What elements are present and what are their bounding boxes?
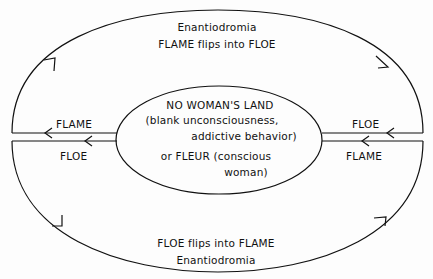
left-lower-label: FLOE <box>60 150 87 162</box>
center-line-1: NO WOMAN'S LAND <box>166 99 273 111</box>
right-upper-label: FLOE <box>352 118 379 130</box>
enantiodromia-diagram: Enantiodromia FLAME flips into FLOE FLAM… <box>0 0 433 279</box>
left-upper-label: FLAME <box>56 118 92 130</box>
center-line-2: (blank unconsciousness, <box>145 114 278 126</box>
center-line-3: addictive behavior) <box>191 130 296 142</box>
center-line-5: woman) <box>224 166 268 178</box>
right-lower-label: FLAME <box>346 150 382 162</box>
center-line-4: or FLEUR (conscious <box>161 150 271 162</box>
bottom-arc-title: Enantiodromia <box>176 254 255 266</box>
arrow-top-left-icon <box>44 58 55 71</box>
top-arc-subtitle: FLAME flips into FLOE <box>158 38 275 50</box>
bottom-arc-subtitle: FLOE flips into FLAME <box>157 237 274 249</box>
top-arc-title: Enantiodromia <box>177 21 256 33</box>
arrow-bottom-left-icon <box>52 215 62 226</box>
arrow-top-right-icon <box>376 56 388 68</box>
